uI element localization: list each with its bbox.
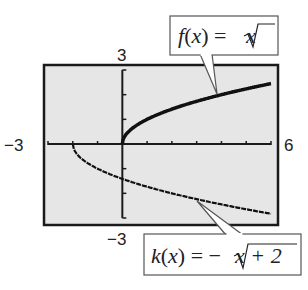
x-min-label: −3 (4, 136, 23, 155)
y-max-label: 3 (117, 46, 126, 65)
y-min-label: −3 (107, 230, 126, 249)
callout-k-label: k(x) = −x + 2 (151, 243, 282, 268)
graph-chart: −3 6 3 −3 f(x) = x k(x) = −x + 2 (0, 0, 308, 290)
x-max-label: 6 (284, 136, 293, 155)
